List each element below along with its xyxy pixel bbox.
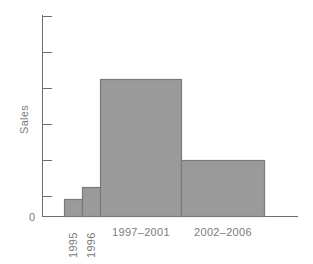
bar-1997-2001	[101, 80, 182, 217]
x-axis-label-1996: 1996	[85, 232, 97, 258]
bar-1996	[83, 188, 101, 217]
bar-2002-2006	[182, 161, 265, 217]
bars-group	[65, 80, 265, 217]
x-axis-label-1995: 1995	[67, 232, 79, 258]
chart-canvas: Sales 0 1995 1996 1997–2001 2002–2006	[0, 0, 313, 264]
y-axis-origin-label: 0	[29, 211, 35, 223]
y-axis	[43, 15, 53, 217]
y-axis-title: Sales	[18, 105, 30, 134]
sales-histogram-chart: Sales 0 1995 1996 1997–2001 2002–2006	[0, 0, 313, 264]
x-axis-label-2002-2006: 2002–2006	[194, 226, 252, 238]
x-axis-label-1997-2001: 1997–2001	[112, 226, 170, 238]
bar-1995	[65, 200, 83, 217]
